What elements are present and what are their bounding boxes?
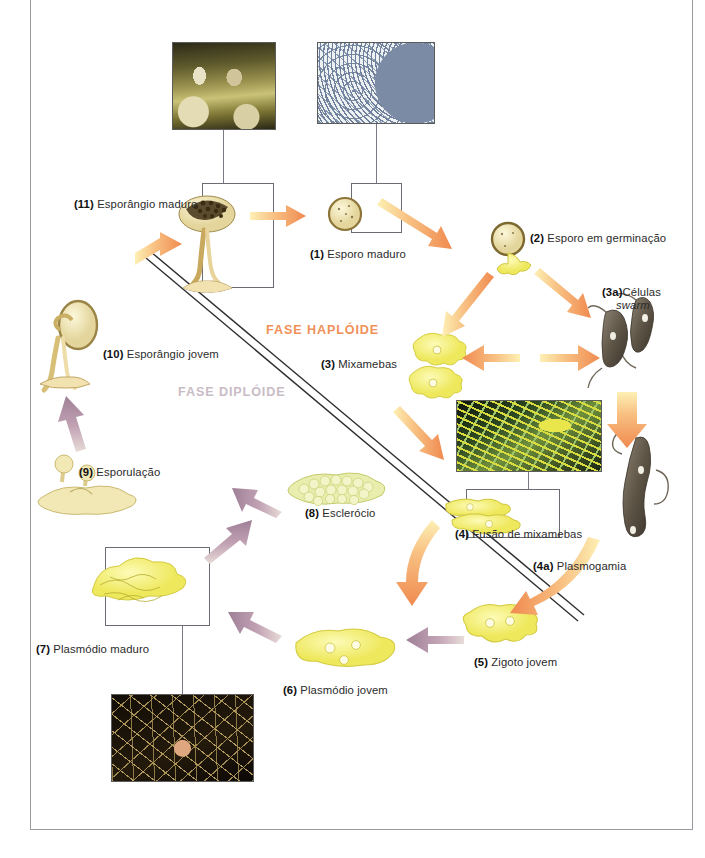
stage-label-1: (1) Esporo maduro	[310, 248, 406, 260]
stage-name-4a: Plasmogamia	[557, 560, 627, 572]
stage-name-7: Plasmódio maduro	[53, 643, 149, 655]
phase-label-diploid: FASE DIPLÓIDE	[178, 385, 286, 399]
stage-label-4: (4) Fusão de mixamebas	[455, 528, 582, 540]
stage-num-9: (9)	[79, 466, 93, 478]
stage-num-4: (4)	[455, 528, 469, 540]
stage-label-9: (9) Esporulação	[79, 466, 160, 478]
stage-num-3: (3)	[321, 358, 335, 370]
stage-name-10: Esporângio jovem	[127, 348, 219, 360]
photo-spores	[317, 42, 435, 124]
stage-label-6: (6) Plasmódio jovem	[283, 684, 388, 696]
photo-plasmodium	[111, 694, 254, 782]
stage-name-3a-italic: swarm	[616, 299, 650, 311]
stage-name-8: Esclerócio	[322, 507, 375, 519]
stage-box-1	[351, 183, 402, 233]
stage-name-1: Esporo maduro	[327, 248, 406, 260]
connector-photo-plasmodium	[182, 626, 183, 694]
photo-myxamoebae	[456, 400, 602, 472]
photo-sporangia	[172, 42, 276, 130]
stage-num-2: (2)	[530, 232, 544, 244]
stage-name-2: Esporo em germinação	[547, 232, 666, 244]
stage-num-5: (5)	[474, 656, 488, 668]
stage-box-11	[202, 183, 274, 288]
diagram-frame	[30, 0, 693, 830]
stage-name-3: Mixamebas	[338, 358, 397, 370]
phase-label-haploid: FASE HAPLÓIDE	[266, 323, 379, 337]
stage-label-7: (7) Plasmódio maduro	[36, 643, 149, 655]
stage-num-10: (10)	[103, 348, 124, 360]
stage-label-5: (5) Zigoto jovem	[474, 656, 557, 668]
stage-name-5: Zigoto jovem	[491, 656, 557, 668]
stage-label-11: (11) Esporângio maduro	[74, 198, 197, 210]
stage-name-3a: Células	[623, 286, 661, 298]
stage-label-3: (3) Mixamebas	[321, 358, 397, 370]
stage-label-2: (2) Esporo em germinação	[530, 232, 666, 244]
connector-photo-spores	[376, 124, 377, 183]
stage-num-4a: (4a)	[533, 560, 554, 572]
stage-label-4a: (4a) Plasmogamia	[533, 560, 626, 572]
stage-num-3a: (3a)	[602, 286, 623, 298]
stage-name-9: Esporulação	[96, 466, 160, 478]
stage-num-7: (7)	[36, 643, 50, 655]
stage-label-10: (10) Esporângio jovem	[103, 348, 219, 360]
stage-num-1: (1)	[310, 248, 324, 260]
stage-name-11: Esporângio maduro	[97, 198, 197, 210]
connector-photo-myxamoebae	[528, 472, 529, 489]
stage-num-8: (8)	[305, 507, 319, 519]
stage-num-6: (6)	[283, 684, 297, 696]
stage-label-3a: (3a)Células swarm	[602, 286, 661, 312]
stage-name-4: Fusão de mixamebas	[472, 528, 582, 540]
stage-name-6: Plasmódio jovem	[300, 684, 388, 696]
stage-label-8: (8) Esclerócio	[305, 507, 375, 519]
stage-box-7	[105, 547, 210, 626]
stage-num-11: (11)	[74, 198, 94, 210]
connector-photo-sporangia	[223, 130, 224, 183]
